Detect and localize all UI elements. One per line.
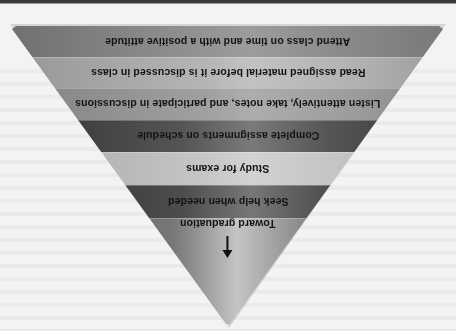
tier-2: Read assigned material before it is disc…	[0, 57, 456, 88]
tier-5-label: Study for exams	[186, 163, 269, 175]
tier-1: Attend class on time and with a positive…	[0, 26, 456, 57]
tier-divider	[0, 57, 456, 58]
tier-1-label: Attend class on time and with a positive…	[105, 36, 350, 48]
tier-7-label: Toward graduation	[180, 218, 275, 230]
tip-content: Toward graduation	[180, 218, 275, 258]
tier-2-label: Read assigned material before it is disc…	[91, 67, 365, 79]
arrow-shaft	[227, 236, 229, 252]
arrow-up-icon	[223, 236, 233, 258]
tier-6-label: Seek help when needed	[168, 196, 289, 208]
tier-divider	[0, 88, 456, 89]
tier-3-label: Listen attentively, take notes, and part…	[75, 98, 380, 110]
tier-4-label: Complete assignments on schedule	[137, 130, 319, 142]
page-top-rule-shadow	[0, 3, 456, 4]
